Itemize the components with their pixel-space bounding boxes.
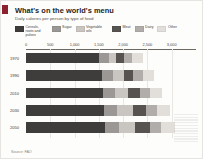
legend-item[interactable]: Dairy — [135, 25, 154, 32]
x-axis-tick-label: 2,500 — [143, 42, 153, 47]
bar-segment[interactable] — [157, 105, 170, 116]
bar-rows: 19701990201020302050 — [9, 50, 196, 137]
watermark-stripe — [174, 122, 198, 123]
watermark-stripe — [174, 114, 198, 115]
y-axis-tick-label: 2010 — [9, 91, 26, 96]
bar-track — [26, 67, 196, 84]
x-axis-tick-label: 500 — [47, 42, 54, 47]
bar-segment[interactable] — [105, 122, 119, 133]
legend-item[interactable]: Vegetable oils — [76, 25, 109, 33]
x-axis-tick-label: 2,000 — [118, 42, 128, 47]
chart-legend: Cereals, roots and pulsesSugarVegetable … — [15, 25, 196, 38]
legend-swatch-icon — [112, 26, 121, 32]
legend-swatch-icon — [15, 26, 24, 32]
bar-segment[interactable] — [133, 70, 142, 81]
legend-label: Dairy — [145, 25, 153, 29]
bar-track — [26, 84, 196, 101]
watermark-stripe — [174, 133, 198, 134]
watermark-stripe — [174, 119, 198, 120]
watermark-stripe — [174, 130, 198, 131]
x-axis-tick-label: 0 — [25, 42, 27, 47]
bar-segment[interactable] — [135, 122, 150, 133]
stacked-bar[interactable] — [26, 122, 175, 133]
source-note: Source: FAO — [11, 150, 32, 154]
bar-segment[interactable] — [146, 105, 157, 116]
bar-segment[interactable] — [150, 122, 161, 133]
legend-swatch-icon — [52, 26, 61, 32]
bar-segment[interactable] — [103, 88, 115, 99]
bar-row[interactable]: 2050 — [9, 119, 196, 136]
bar-segment[interactable] — [119, 122, 136, 133]
legend-item[interactable]: Sugar — [52, 25, 72, 32]
bar-segment[interactable] — [113, 70, 124, 81]
stacked-bar[interactable] — [26, 53, 143, 64]
bar-row[interactable]: 2030 — [9, 102, 196, 119]
bar-segment[interactable] — [26, 70, 102, 81]
bar-segment[interactable] — [104, 105, 117, 116]
bar-segment[interactable] — [143, 70, 154, 81]
bar-segment[interactable] — [140, 88, 150, 99]
bar-segment[interactable] — [124, 70, 134, 81]
bar-row[interactable]: 1970 — [9, 50, 196, 67]
y-axis-tick-label: 1970 — [9, 56, 26, 61]
legend-label: Meat — [123, 25, 131, 29]
legend-swatch-icon — [76, 26, 85, 32]
bar-row[interactable]: 2010 — [9, 84, 196, 101]
bar-segment[interactable] — [161, 122, 174, 133]
chart-subtitle: Daily calories per person by type of foo… — [15, 16, 196, 22]
legend-item[interactable]: Other — [157, 25, 177, 32]
stacked-bar[interactable] — [26, 88, 162, 99]
page-title: What's on the world's menu — [15, 6, 196, 15]
x-axis-tick-label: 1,000 — [70, 42, 80, 47]
bar-track — [26, 102, 196, 119]
y-axis-tick-label: 1990 — [9, 73, 26, 78]
watermark-stripe — [174, 136, 198, 137]
watermark-stripe — [174, 117, 198, 118]
accent-mark — [2, 5, 8, 14]
plot-area: 05001,0001,5002,0002,5003,000 1970199020… — [9, 40, 196, 148]
bar-segment[interactable] — [26, 105, 104, 116]
bar-segment[interactable] — [132, 53, 142, 64]
stacked-bar[interactable] — [26, 105, 170, 116]
bar-segment[interactable] — [116, 53, 124, 64]
bar-segment[interactable] — [128, 88, 140, 99]
bar-segment[interactable] — [26, 53, 99, 64]
bar-row[interactable]: 1990 — [9, 67, 196, 84]
watermark-stripe — [174, 128, 198, 129]
bar-segment[interactable] — [109, 53, 117, 64]
legend-label: Vegetable oils — [86, 25, 108, 33]
watermark-stripe — [174, 125, 198, 126]
bar-track — [26, 50, 196, 67]
x-axis-tick-label: 3,000 — [167, 42, 177, 47]
y-axis-tick-label: 2050 — [9, 125, 26, 130]
bar-segment[interactable] — [26, 122, 105, 133]
bar-segment[interactable] — [124, 53, 132, 64]
y-axis-tick-label: 2030 — [9, 108, 26, 113]
watermark-stripe — [174, 141, 198, 142]
watermark-stripe — [174, 138, 198, 139]
legend-label: Other — [168, 25, 177, 29]
legend-swatch-icon — [157, 26, 166, 32]
legend-item[interactable]: Meat — [112, 25, 131, 32]
legend-swatch-icon — [135, 26, 144, 32]
bar-segment[interactable] — [117, 105, 133, 116]
watermark — [174, 114, 198, 144]
chart-card: What's on the world's menu Daily calorie… — [0, 0, 203, 159]
bar-segment[interactable] — [133, 105, 147, 116]
stacked-bar[interactable] — [26, 70, 154, 81]
bar-segment[interactable] — [115, 88, 129, 99]
bar-segment[interactable] — [99, 53, 109, 64]
bar-segment[interactable] — [102, 70, 113, 81]
bar-segment[interactable] — [26, 88, 103, 99]
x-axis-tick-label: 1,500 — [94, 42, 104, 47]
legend-item[interactable]: Cereals, roots and pulses — [15, 25, 48, 38]
bar-segment[interactable] — [150, 88, 162, 99]
bar-track — [26, 119, 196, 136]
legend-label: Sugar — [62, 25, 72, 29]
legend-label: Cereals, roots and pulses — [26, 25, 48, 38]
